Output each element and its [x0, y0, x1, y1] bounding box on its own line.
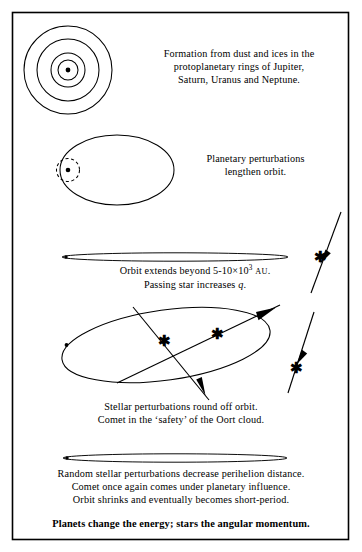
caption-extends-suffix: .	[268, 265, 271, 276]
caption-formation: Formation from dust and ices in the prot…	[140, 47, 338, 87]
shrinking-orbit-ellipse-icon	[63, 454, 287, 462]
caption-extends-prefix: Orbit extends beyond 5-10×10	[120, 265, 249, 276]
caption-random-line-3: Orbit shrinks and eventually becomes sho…	[34, 493, 328, 506]
stage-return-short-period-diagram	[63, 454, 287, 462]
caption-stellar-line-1: Stellar perturbations round off orbit.	[52, 400, 310, 413]
caption-passing-star-suffix: .	[243, 279, 246, 290]
caption-formation-line-2: protoplanetary rings of Jupiter,	[140, 60, 338, 73]
caption-stellar-rounding: Stellar perturbations round off orbit. C…	[52, 400, 310, 426]
caption-return-short-period: Random stellar perturbations decrease pe…	[34, 467, 328, 507]
central-body-dot-icon	[66, 68, 71, 73]
caption-formation-line-1: Formation from dust and ices in the	[140, 47, 338, 60]
sun-dot-icon	[64, 255, 67, 258]
caption-planetary-perturbation: Planetary perturbations lengthen orbit.	[168, 152, 343, 178]
star-track-a-line-icon	[133, 307, 209, 400]
caption-random-line-1: Random stellar perturbations decrease pe…	[34, 467, 328, 480]
star-glyph-icon: ✱	[290, 360, 303, 376]
comet-orbit-evolution-figure: ✱ ✱ ✱ ✱ Formation from dust and ice	[0, 0, 362, 552]
lengthened-orbit-ellipse-icon	[60, 135, 174, 205]
caption-perturbation-line-2: lengthen orbit.	[168, 165, 343, 178]
caption-passing-star-prefix: Passing star increases	[144, 279, 238, 290]
star-track-b-arrowhead-icon	[256, 308, 276, 321]
caption-extends-unit: AU	[255, 267, 267, 276]
stage-stellar-rounding-diagram: ✱ ✱ ✱	[57, 296, 314, 400]
caption-extends-line-2: Passing star increases q.	[85, 278, 305, 291]
caption-random-line-2: Comet once again comes under planetary i…	[34, 480, 328, 493]
sun-dot-icon	[65, 456, 68, 459]
stage-formation-diagram	[24, 26, 112, 114]
caption-perturbation-line-1: Planetary perturbations	[168, 152, 343, 165]
caption-conclusion: Planets change the energy; stars the ang…	[22, 517, 340, 530]
stage-planetary-perturbation-diagram	[57, 135, 175, 205]
star-glyph-icon: ✱	[211, 326, 224, 342]
caption-extends-line-1: Orbit extends beyond 5-10×103 AU.	[85, 264, 305, 278]
extended-orbit-ellipse-icon	[62, 253, 288, 261]
star-glyph-icon: ✱	[158, 333, 171, 349]
caption-orbit-extends: Orbit extends beyond 5-10×103 AU. Passin…	[85, 264, 305, 291]
sun-dot-icon	[65, 343, 69, 347]
caption-formation-line-3: Saturn, Uranus and Neptune.	[140, 73, 338, 86]
caption-stellar-line-2: Comet in the ‘safety’ of the Oort cloud.	[52, 413, 310, 426]
star-glyph-icon: ✱	[314, 249, 327, 265]
sun-dot-icon	[66, 168, 71, 173]
